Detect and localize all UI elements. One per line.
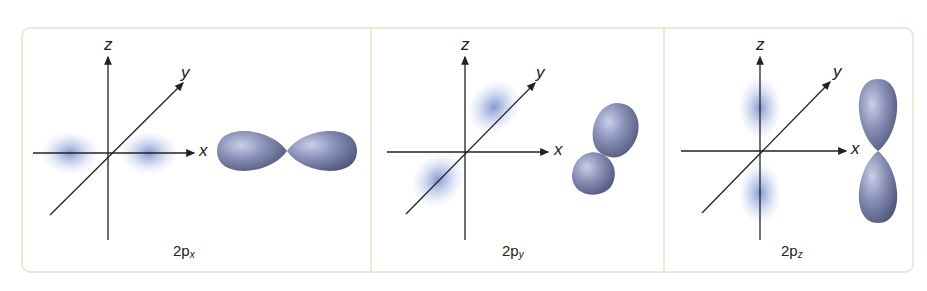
z-axis-label: z xyxy=(756,35,765,55)
z-axis-label: z xyxy=(104,35,113,55)
x-axis-label: x xyxy=(851,139,860,159)
y-axis-label: y xyxy=(536,63,545,83)
axes-diagram xyxy=(21,27,370,273)
orbital-lobes-z xyxy=(859,79,897,223)
orbital-lobes-x xyxy=(217,131,357,171)
x-axis-label: x xyxy=(199,141,208,161)
panel-2px: z y x 2px xyxy=(21,27,370,273)
orbital-caption: 2py xyxy=(502,242,524,260)
axes-diagram xyxy=(372,27,663,273)
orbital-lobes-y xyxy=(572,103,639,195)
panel-2pz: z y x 2pz xyxy=(665,27,914,273)
orbital-caption: 2px xyxy=(173,242,195,260)
electron-cloud xyxy=(456,68,533,146)
axes-diagram xyxy=(665,27,914,273)
z-axis-label: z xyxy=(461,35,470,55)
panel-2py: z y x 2py xyxy=(372,27,663,273)
y-axis-label: y xyxy=(181,63,190,83)
y-axis-label: y xyxy=(833,62,842,82)
orbital-caption: 2pz xyxy=(781,242,803,260)
x-axis-label: x xyxy=(554,140,563,160)
